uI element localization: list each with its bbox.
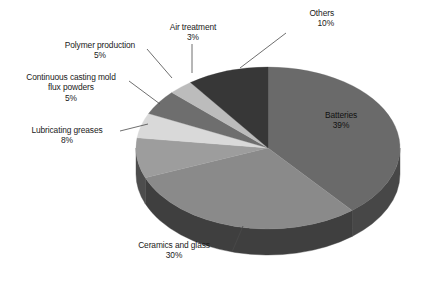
slice-label-batteries: Batteries 39% xyxy=(306,110,376,131)
slice-label-polymer-production-name: Polymer production xyxy=(48,40,152,50)
slice-label-air-treatment-value: 3% xyxy=(150,32,236,42)
slice-label-flux-powders-value: 5% xyxy=(6,93,136,103)
slice-label-polymer-production: Polymer production 5% xyxy=(48,40,152,61)
slice-label-others-value: 10% xyxy=(274,18,334,28)
slice-label-batteries-name: Batteries xyxy=(306,110,376,120)
slice-label-ceramics-and-glass: Ceramics and glass 30% xyxy=(116,240,232,261)
pie-top-faces xyxy=(136,67,400,229)
slice-label-others-name: Others xyxy=(274,8,334,18)
leader-line-others xyxy=(240,33,286,68)
slice-label-batteries-value: 39% xyxy=(306,120,376,130)
slice-label-lubricating-greases: Lubricating greases 8% xyxy=(8,125,126,146)
slice-label-ceramics-and-glass-name: Ceramics and glass xyxy=(116,240,232,250)
slice-label-ceramics-and-glass-value: 30% xyxy=(116,250,232,260)
slice-label-flux-powders: Continuous casting mold flux powders 5% xyxy=(6,72,136,103)
pie-chart-figure: Others 10% Air treatment 3% Polymer prod… xyxy=(0,0,430,286)
slice-label-air-treatment-name: Air treatment xyxy=(150,22,236,32)
slice-label-air-treatment: Air treatment 3% xyxy=(150,22,236,43)
slice-label-lubricating-greases-value: 8% xyxy=(8,135,126,145)
slice-label-others: Others 10% xyxy=(274,8,334,29)
slice-label-polymer-production-value: 5% xyxy=(48,50,152,60)
slice-label-flux-powders-name-line2: flux powders xyxy=(6,82,136,92)
slice-label-lubricating-greases-name: Lubricating greases xyxy=(8,125,126,135)
slice-label-flux-powders-name-line1: Continuous casting mold xyxy=(6,72,136,82)
